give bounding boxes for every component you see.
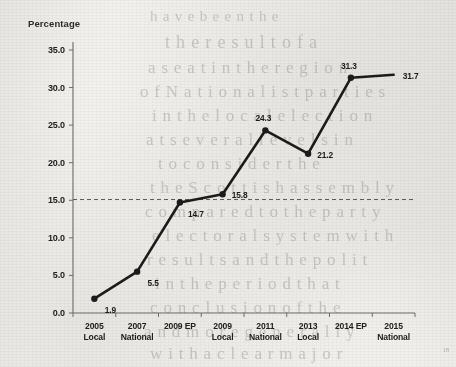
data-point-marker xyxy=(305,150,311,156)
data-value-label: 31.3 xyxy=(341,61,357,71)
footnote-marker: 18 xyxy=(443,347,449,353)
data-point-marker xyxy=(348,75,354,81)
data-value-label: 1.9 xyxy=(105,305,116,315)
data-value-label: 24.3 xyxy=(256,113,272,123)
y-tick-label: 20.0 xyxy=(31,158,65,168)
y-tick-label: 5.0 xyxy=(31,270,65,280)
y-tick-label: 25.0 xyxy=(31,120,65,130)
line-chart: Percentage 0.05.010.015.020.025.030.035.… xyxy=(0,0,456,367)
data-value-label: 21.2 xyxy=(317,150,333,160)
x-category-label: 2015 National xyxy=(363,321,424,343)
y-tick-label: 0.0 xyxy=(31,308,65,318)
data-point-marker xyxy=(134,268,140,274)
y-tick-label: 10.0 xyxy=(31,233,65,243)
data-point-marker xyxy=(262,127,268,133)
data-value-label: 15.8 xyxy=(232,190,248,200)
data-value-label: 31.7 xyxy=(403,71,419,81)
data-line xyxy=(94,75,393,299)
data-value-label: 14.7 xyxy=(188,209,204,219)
chart-canvas xyxy=(0,0,456,367)
y-tick-label: 35.0 xyxy=(31,45,65,55)
data-value-label: 5.5 xyxy=(148,278,159,288)
data-point-marker xyxy=(91,296,97,302)
data-point-marker xyxy=(177,199,183,205)
data-point-marker xyxy=(219,191,225,197)
y-tick-label: 30.0 xyxy=(31,83,65,93)
y-tick-label: 15.0 xyxy=(31,195,65,205)
